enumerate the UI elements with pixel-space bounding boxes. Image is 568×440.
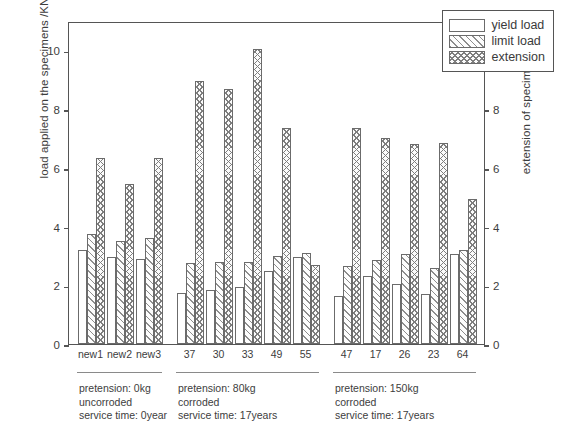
legend-item-yield-load: yield load bbox=[449, 18, 545, 32]
bar-yield-load-23 bbox=[421, 294, 430, 344]
bar-yield-load-17 bbox=[363, 276, 372, 344]
bar-yield-load-49 bbox=[264, 271, 273, 344]
caption-line: pretension: 80kg bbox=[178, 382, 277, 396]
bar-group bbox=[78, 23, 105, 344]
bar-yield-load-64 bbox=[450, 254, 459, 344]
x-axis-tick-labels: new1new2new337303349554717262364 bbox=[68, 348, 485, 364]
bar-extension-47 bbox=[352, 128, 361, 344]
x-tick-label-new2: new2 bbox=[107, 348, 132, 360]
bar-yield-load-30 bbox=[206, 290, 215, 344]
caption-underline bbox=[333, 372, 476, 373]
bar-yield-load-new1 bbox=[78, 250, 87, 344]
caption-block: pretension: 0kguncorrodedservice time: 0… bbox=[79, 382, 167, 423]
bar-yield-load-37 bbox=[177, 293, 186, 344]
y-tick-label-r-0: 0 bbox=[493, 340, 499, 352]
y-tick-label-l-8: 8 bbox=[54, 105, 60, 117]
y-tick-label-l-4: 4 bbox=[54, 223, 60, 235]
bar-extension-26 bbox=[410, 144, 419, 344]
bar-limit-load-55 bbox=[302, 253, 311, 344]
bar-group bbox=[206, 23, 233, 344]
legend-swatch-extension bbox=[449, 51, 485, 64]
y-tick-label-r-8: 8 bbox=[493, 105, 499, 117]
y-tick-r-6 bbox=[484, 169, 489, 170]
caption-line: corroded bbox=[335, 396, 434, 410]
bar-limit-load-47 bbox=[343, 266, 352, 344]
y-tick-r-2 bbox=[484, 287, 489, 288]
bar-limit-load-23 bbox=[430, 268, 439, 344]
x-tick-label-new1: new1 bbox=[78, 348, 103, 360]
legend-label-limit-load: limit load bbox=[491, 34, 540, 48]
bar-yield-load-new3 bbox=[136, 259, 145, 344]
caption-underline bbox=[77, 372, 162, 373]
bar-extension-37 bbox=[195, 81, 204, 344]
bar-yield-load-47 bbox=[334, 296, 343, 344]
bar-extension-17 bbox=[381, 138, 390, 344]
bar-limit-load-17 bbox=[372, 260, 381, 344]
x-tick-label-64: 64 bbox=[457, 348, 469, 360]
y-tick-label-l-6: 6 bbox=[54, 164, 60, 176]
bar-group bbox=[264, 23, 291, 344]
chart-legend: yield load limit load extension bbox=[442, 10, 554, 72]
bar-group bbox=[334, 23, 361, 344]
bar-group bbox=[177, 23, 204, 344]
caption-line: corroded bbox=[178, 396, 277, 410]
y-tick-label-r-4: 4 bbox=[493, 223, 499, 235]
y-tick-l-0 bbox=[64, 345, 69, 346]
caption-line: service time: 17years bbox=[335, 409, 434, 423]
x-tick-label-23: 23 bbox=[428, 348, 440, 360]
caption-line: service time: 0year bbox=[79, 409, 167, 423]
legend-label-yield-load: yield load bbox=[491, 18, 544, 32]
x-tick-label-30: 30 bbox=[213, 348, 225, 360]
caption-block: pretension: 150kgcorrodedservice time: 1… bbox=[335, 382, 434, 423]
bar-extension-23 bbox=[439, 143, 448, 344]
legend-swatch-yield-load bbox=[449, 19, 485, 32]
bar-limit-load-new2 bbox=[116, 241, 125, 344]
x-tick-label-17: 17 bbox=[370, 348, 382, 360]
caption-line: uncorroded bbox=[79, 396, 167, 410]
bar-group bbox=[392, 23, 419, 344]
x-tick-label-49: 49 bbox=[271, 348, 283, 360]
bar-extension-64 bbox=[468, 199, 477, 344]
group-captions: pretension: 0kguncorrodedservice time: 0… bbox=[0, 372, 568, 440]
caption-block: pretension: 80kgcorrodedservice time: 17… bbox=[178, 382, 277, 423]
caption-underline bbox=[176, 372, 319, 373]
bar-extension-30 bbox=[224, 89, 233, 344]
bar-group bbox=[235, 23, 262, 344]
bar-limit-load-64 bbox=[459, 250, 468, 344]
bar-yield-load-new2 bbox=[107, 257, 116, 344]
legend-item-extension: extension bbox=[449, 50, 545, 64]
bar-yield-load-55 bbox=[293, 257, 302, 344]
x-tick-label-55: 55 bbox=[300, 348, 312, 360]
legend-label-extension: extension bbox=[491, 50, 545, 64]
legend-swatch-limit-load bbox=[449, 35, 485, 48]
bar-extension-49 bbox=[282, 128, 291, 344]
bar-limit-load-26 bbox=[401, 254, 410, 344]
bar-limit-load-30 bbox=[215, 262, 224, 344]
y-tick-r-0 bbox=[484, 345, 489, 346]
bar-extension-new1 bbox=[96, 158, 105, 344]
bar-group bbox=[363, 23, 390, 344]
y-tick-r-8 bbox=[484, 110, 489, 111]
bar-yield-load-33 bbox=[235, 287, 244, 344]
x-tick-label-26: 26 bbox=[399, 348, 411, 360]
bar-limit-load-33 bbox=[244, 262, 253, 344]
bar-groups bbox=[69, 23, 484, 344]
bar-extension-33 bbox=[253, 49, 262, 344]
caption-line: service time: 17years bbox=[178, 409, 277, 423]
y-tick-label-r-2: 2 bbox=[493, 281, 499, 293]
x-tick-label-47: 47 bbox=[341, 348, 353, 360]
y-tick-label-r-6: 6 bbox=[493, 164, 499, 176]
x-tick-label-37: 37 bbox=[184, 348, 196, 360]
bar-group bbox=[107, 23, 134, 344]
chart-figure: load applied on the specimens /KN extens… bbox=[0, 0, 568, 440]
bar-extension-55 bbox=[311, 265, 320, 344]
x-tick-label-new3: new3 bbox=[136, 348, 161, 360]
bar-group bbox=[293, 23, 320, 344]
caption-line: pretension: 150kg bbox=[335, 382, 434, 396]
bar-limit-load-new3 bbox=[145, 238, 154, 344]
y-tick-label-l-0: 0 bbox=[54, 340, 60, 352]
bar-limit-load-37 bbox=[186, 263, 195, 344]
plot-area: 0246810 0246810 bbox=[68, 22, 485, 345]
y-tick-r-4 bbox=[484, 228, 489, 229]
y-tick-label-l-2: 2 bbox=[54, 281, 60, 293]
